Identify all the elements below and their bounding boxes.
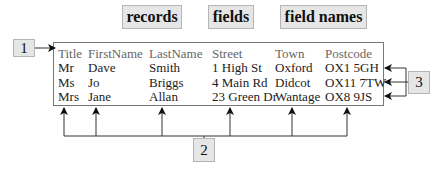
arrows-3: [385, 68, 408, 96]
arrows-2: [64, 108, 347, 138]
connector-arrows: [0, 0, 443, 173]
